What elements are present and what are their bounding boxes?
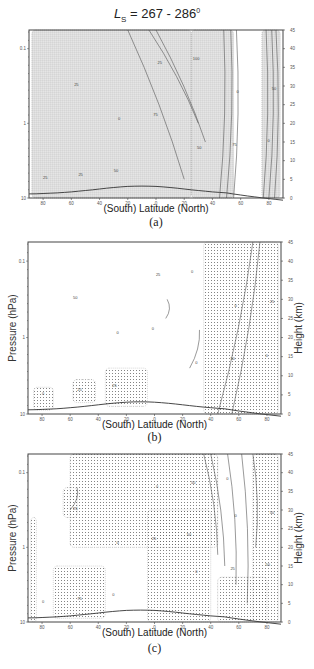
- pressure-tick-label: 1: [22, 335, 25, 340]
- height-tick-label: 10: [288, 373, 294, 378]
- pressure-tick-label: 1: [22, 545, 25, 550]
- contour-label: 0: [117, 330, 120, 335]
- pressure-tick-label: 10: [20, 412, 26, 417]
- height-tick-label: 5: [290, 177, 293, 182]
- contour-label: 75: [232, 142, 237, 147]
- contour-label: 0: [112, 592, 115, 597]
- contour-label: 25: [43, 175, 48, 180]
- pressure-tick-label: 0.1: [19, 259, 26, 264]
- x-tick-label: 60: [68, 625, 74, 630]
- contour-label: 25: [78, 172, 83, 177]
- contour-label: 0: [42, 599, 45, 604]
- panel-c: 0000075502550250255005080604020020406080…: [7, 452, 304, 656]
- height-tick-label: 10: [288, 582, 294, 587]
- height-axis-label: Height (km): [293, 512, 304, 564]
- x-tick-label: 80: [264, 625, 270, 630]
- contour-label: 50: [272, 86, 277, 91]
- contour-label: 50: [270, 510, 275, 515]
- contour-label: 75: [153, 112, 158, 117]
- x-axis-label: (South) Latitude (North): [102, 627, 207, 638]
- x-tick-label: 40: [96, 417, 102, 422]
- contour-label: 25: [73, 506, 78, 511]
- height-tick-label: 25: [290, 102, 296, 107]
- height-tick-label: 15: [288, 354, 294, 359]
- stippled-region: [147, 510, 210, 622]
- height-tick-label: 35: [288, 278, 294, 283]
- x-tick-label: 80: [40, 625, 46, 630]
- pressure-tick-label: 1: [23, 121, 26, 126]
- pressure-tick-label: 0.1: [20, 46, 27, 51]
- height-tick-label: 30: [288, 297, 294, 302]
- height-tick-label: 35: [290, 65, 296, 70]
- contour-label: 0: [236, 89, 239, 94]
- contour-label: 50: [266, 562, 271, 567]
- x-tick-label: 40: [208, 417, 214, 422]
- x-tick-label: 80: [41, 201, 47, 206]
- height-tick-label: 15: [290, 140, 296, 145]
- contour-label: 0: [152, 326, 155, 331]
- pressure-tick-label: 10: [20, 620, 26, 625]
- stippled-region: [31, 517, 37, 622]
- contour-label: 25: [77, 387, 82, 392]
- pressure-tick-label: 10: [21, 196, 27, 201]
- height-tick-label: 5: [288, 601, 291, 606]
- height-tick-label: 40: [290, 46, 296, 51]
- contour-label: 0: [191, 269, 194, 274]
- pressure-axis-label: Pressure (hPa): [7, 294, 18, 361]
- x-tick-label: 60: [236, 417, 242, 422]
- panel-a: 2505025025507510075502508060402002040608…: [20, 28, 296, 230]
- contour-line: [234, 30, 239, 198]
- stippled-region: [204, 242, 278, 414]
- contour-label: 100: [193, 56, 200, 61]
- x-tick-label: 60: [238, 201, 244, 206]
- x-axis-label: (South) Latitude (North): [103, 203, 208, 214]
- contour-label: 50: [191, 480, 196, 485]
- contour-label: 50: [187, 532, 192, 537]
- contour-label: 25: [157, 60, 162, 65]
- contour-label: 50: [114, 168, 119, 173]
- height-tick-label: 30: [288, 508, 294, 513]
- contour-label: 0: [235, 513, 238, 518]
- stippled-region: [32, 30, 191, 198]
- height-tick-label: 0: [288, 620, 291, 625]
- contour-label: 25: [152, 536, 157, 541]
- contour-label: 0: [226, 476, 229, 481]
- height-tick-label: 40: [288, 259, 294, 264]
- x-tick-label: 40: [208, 625, 214, 630]
- height-axis-label: Height (km): [293, 302, 304, 354]
- x-tick-label: 40: [97, 201, 103, 206]
- height-tick-label: 45: [290, 28, 296, 33]
- x-tick-label: 80: [264, 417, 270, 422]
- height-tick-label: 45: [288, 452, 294, 457]
- stippled-region: [53, 566, 105, 618]
- contour-label: 75: [77, 596, 82, 601]
- x-tick-label: 40: [210, 201, 216, 206]
- contour-label: 50: [73, 295, 78, 300]
- panel-tag: (a): [149, 215, 162, 229]
- height-tick-label: 10: [290, 158, 296, 163]
- contour-label: 50: [197, 145, 202, 150]
- height-tick-label: 0: [290, 196, 293, 201]
- contour-label: 25: [270, 299, 275, 304]
- height-tick-label: 35: [288, 489, 294, 494]
- x-tick-label: 80: [266, 201, 272, 206]
- x-tick-label: 60: [68, 417, 74, 422]
- contour-label: 0: [195, 360, 198, 365]
- contour-label: 50: [230, 356, 235, 361]
- height-tick-label: 5: [288, 392, 291, 397]
- height-tick-label: 0: [288, 412, 291, 417]
- x-tick-label: 80: [40, 417, 46, 422]
- stippled-region: [218, 577, 267, 622]
- figure-canvas: 2505025025507510075502508060402002040608…: [0, 0, 314, 669]
- height-tick-label: 40: [288, 470, 294, 475]
- height-tick-label: 45: [288, 240, 294, 245]
- contour-label: 25: [156, 272, 161, 277]
- panel-tag: (c): [148, 641, 161, 655]
- x-axis-label: (South) Latitude (North): [102, 419, 207, 430]
- contour-line: [166, 299, 170, 318]
- x-tick-label: 60: [236, 625, 242, 630]
- x-tick-label: 40: [96, 625, 102, 630]
- height-tick-label: 30: [290, 84, 296, 89]
- x-tick-label: 60: [69, 201, 75, 206]
- contour-label: 25: [112, 383, 117, 388]
